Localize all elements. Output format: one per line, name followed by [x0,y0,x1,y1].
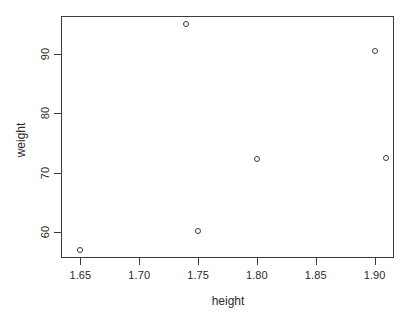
x-axis-tick [316,258,317,265]
data-point [372,48,378,54]
x-axis-tick-label: 1.80 [246,269,268,281]
x-axis-tick-label: 1.65 [70,269,92,281]
y-axis-tick [54,54,61,55]
scatter-plot-figure: 1.651.701.751.801.851.90 60708090 height… [0,0,410,323]
x-axis-tick-label: 1.90 [364,269,386,281]
y-axis-label: weight [14,123,28,158]
x-axis-label: height [212,294,245,308]
y-axis-tick [54,173,61,174]
plot-panel-border [61,16,394,258]
x-axis-tick-label: 1.70 [128,269,150,281]
y-axis-tick-label: 80 [39,107,51,119]
y-axis-tick-label: 90 [39,47,51,59]
data-point [254,156,260,162]
data-point [195,228,201,234]
x-axis-tick [198,258,199,265]
y-axis-tick [54,113,61,114]
x-axis-tick [375,258,376,265]
x-axis-tick [80,258,81,265]
y-axis-tick [54,232,61,233]
x-axis-tick-label: 1.75 [187,269,209,281]
x-axis-tick [139,258,140,265]
y-axis-tick-label: 60 [39,226,51,238]
y-axis-tick-label: 70 [39,167,51,179]
x-axis-tick-label: 1.85 [305,269,327,281]
x-axis-tick [257,258,258,265]
